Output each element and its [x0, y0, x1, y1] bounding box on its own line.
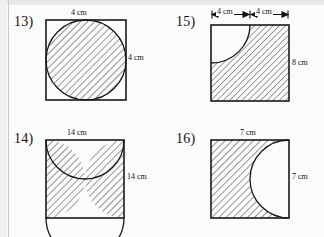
- problem-16-top-label: 7 cm: [240, 128, 256, 137]
- problem-15-shaded-region: [211, 25, 289, 101]
- problem-15-right-label: 8 cm: [292, 58, 308, 67]
- problem-13-top-label: 4 cm: [71, 8, 87, 17]
- problem-14-arc-bottom: [46, 218, 124, 237]
- problem-15-top-left-label: 4 cm: [216, 7, 234, 16]
- problem-13-figure: [46, 20, 126, 100]
- problem-14-figure: [46, 140, 124, 218]
- worksheet-page: 13) 4 cm 4 cm 15): [0, 0, 324, 237]
- problem-14-right-label: 14 cm: [127, 172, 147, 181]
- problem-13-number: 13): [14, 14, 33, 30]
- scan-top-band: [0, 0, 324, 5]
- problem-14-top-label: 14 cm: [67, 128, 87, 137]
- problem-15-figure: [211, 25, 289, 101]
- problem-16-figure: [211, 140, 289, 218]
- problem-13-right-label: 4 cm: [128, 53, 144, 62]
- problem-16-right-label: 7 cm: [292, 172, 308, 181]
- margin-rule-line: [8, 0, 9, 237]
- problem-15-number: 15): [176, 14, 195, 30]
- arrowhead-left-b: [243, 12, 249, 17]
- problem-16-number: 16): [176, 131, 195, 147]
- problem-15-top-right-label: 4 cm: [255, 7, 273, 16]
- scan-left-band: [0, 0, 7, 237]
- problem-14-number: 14): [14, 131, 33, 147]
- arrowhead-right-b: [282, 12, 288, 17]
